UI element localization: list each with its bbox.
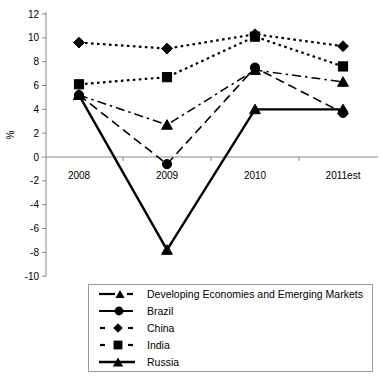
- chart-legend: Developing Economies and Emerging Market…: [88, 284, 373, 372]
- y-tick-label: -8: [30, 247, 39, 258]
- x-tick-label: 2008: [68, 170, 91, 181]
- legend-label: Developing Economies and Emerging Market…: [147, 288, 363, 300]
- y-tick-label: 2: [33, 128, 39, 139]
- y-tick-label: 12: [28, 9, 40, 20]
- series-china: [74, 29, 349, 54]
- legend-marker-russia: [97, 355, 141, 369]
- y-tick-label: 0: [33, 152, 39, 163]
- legend-label: China: [147, 322, 174, 334]
- series-developing-economies-and-emerging-markets: [74, 65, 349, 129]
- y-tick-label: -2: [30, 175, 39, 186]
- legend-label: India: [147, 339, 170, 351]
- legend-item[interactable]: China: [89, 319, 372, 336]
- legend-marker-china: [97, 321, 141, 335]
- legend-marker-developing-economies: [97, 287, 141, 301]
- y-tick-label: -4: [30, 199, 39, 210]
- legend-label: Russia: [147, 356, 179, 368]
- y-tick-label: -10: [25, 271, 40, 282]
- y-tick-label: 4: [33, 104, 39, 115]
- legend-item[interactable]: Brazil: [89, 302, 372, 319]
- y-axis-title: %: [5, 130, 16, 139]
- series-russia: [74, 90, 349, 255]
- legend-item[interactable]: Developing Economies and Emerging Market…: [89, 285, 372, 302]
- y-tick-label: 10: [28, 32, 40, 43]
- y-tick-label: 6: [33, 80, 39, 91]
- x-tick-label: 2010: [244, 170, 267, 181]
- legend-item[interactable]: Russia: [89, 353, 372, 370]
- legend-label: Brazil: [147, 305, 173, 317]
- series-brazil: [74, 63, 347, 169]
- chart-plot-area: 121086420-2-4-6-8-102008200920102011est%: [0, 0, 383, 290]
- x-tick-label: 2011est: [326, 170, 361, 181]
- legend-marker-india: [97, 338, 141, 352]
- y-tick-label: 8: [33, 56, 39, 67]
- chart-container: 121086420-2-4-6-8-102008200920102011est%…: [0, 0, 383, 380]
- x-tick-label: 2009: [156, 170, 179, 181]
- y-tick-label: -6: [30, 223, 39, 234]
- legend-item[interactable]: India: [89, 336, 372, 353]
- legend-marker-brazil: [97, 304, 141, 318]
